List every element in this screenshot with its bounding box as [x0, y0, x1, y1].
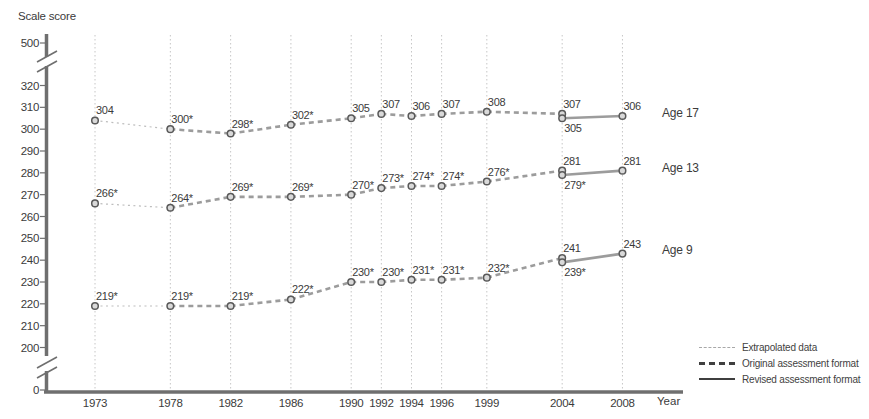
age-13-value-label-2004: 279*: [564, 179, 586, 191]
age-13-point-1982: [227, 194, 234, 201]
age-9-value-label-1978: 219*: [171, 290, 193, 302]
age-13-revised-segment: [562, 171, 622, 175]
legend-item-original: Original assessment format: [699, 355, 860, 371]
age-13-original-segment: [291, 195, 351, 197]
age-17-original-segment: [442, 112, 487, 114]
y-tick-label-270: 270: [21, 189, 39, 201]
x-tick-label-1990: 1990: [339, 397, 363, 409]
age-13-point-1994: [408, 183, 415, 190]
age-9-value-label-1990: 230*: [352, 266, 374, 278]
age-13-point-1999: [484, 178, 491, 185]
age-13-original-segment: [381, 186, 411, 188]
legend-item-extrapolated: Extrapolated data: [699, 339, 860, 355]
age-13-value-label-1996: 274*: [443, 170, 465, 182]
series-label-age-9: Age 9: [662, 243, 692, 257]
age-9-point-1986: [288, 296, 295, 303]
age-17-point-1994: [408, 113, 415, 120]
y-tick-label-500: 500: [21, 37, 39, 49]
age-17-value-label-1996: 307: [443, 98, 461, 110]
age-17-original-segment: [170, 129, 230, 133]
chart-figure: 5003203103002902802702602502402302202102…: [0, 0, 869, 419]
age-17-value-label-2004: 307: [563, 98, 581, 110]
y-tick-label-220: 220: [21, 298, 39, 310]
x-tick-label-1973: 1973: [83, 397, 107, 409]
age-9-value-label-1994: 231*: [412, 264, 434, 276]
x-tick-label-1994: 1994: [399, 397, 424, 409]
age-9-value-label-2004: 241: [563, 242, 581, 254]
x-tick-label-1982: 1982: [218, 397, 242, 409]
age-9-value-label-2004: 239*: [564, 266, 586, 278]
age-17-original-segment: [487, 112, 562, 114]
y-tick-label-240: 240: [21, 254, 39, 266]
y-tick-label-290: 290: [21, 145, 39, 157]
age-17-original-segment: [411, 114, 441, 116]
age-9-value-label-1999: 232*: [488, 262, 510, 274]
age-13-value-label-2004: 281: [563, 155, 581, 167]
age-9-point-1992: [378, 279, 385, 286]
age-17-original-segment: [381, 114, 411, 116]
x-axis-title: Year: [657, 395, 680, 407]
legend-label: Revised assessment format: [742, 374, 860, 385]
age-17-point-1990: [348, 115, 355, 122]
y-tick-label-210: 210: [21, 320, 39, 332]
y-tick-label-200: 200: [21, 342, 39, 354]
age-9-original-segment: [442, 278, 487, 280]
age-17-original-segment: [351, 114, 381, 118]
y-tick-label-260: 260: [21, 211, 39, 223]
age-17-point-1999: [484, 108, 491, 115]
x-tick-label-1996: 1996: [429, 397, 453, 409]
age-17-revised-segment: [562, 116, 622, 118]
age-9-revised-segment: [562, 254, 622, 263]
age-9-point-1982: [227, 303, 234, 310]
x-tick-label-1978: 1978: [158, 397, 182, 409]
x-tick-label-2004: 2004: [550, 397, 575, 409]
y-tick-label-250: 250: [21, 232, 39, 244]
extrapolated-line-swatch: [699, 347, 735, 348]
x-tick-label-2008: 2008: [610, 397, 634, 409]
series-label-age-17: Age 17: [662, 106, 699, 120]
age-13-value-label-1978: 264*: [171, 192, 193, 204]
age-13-value-label-2008: 281: [623, 155, 641, 167]
legend-label: Original assessment format: [742, 358, 859, 369]
age-17-value-label-1994: 306: [412, 100, 430, 112]
age-17-point-1986: [288, 122, 295, 129]
age-13-value-label-1994: 274*: [412, 170, 434, 182]
age-17-extrapolated-segment: [95, 120, 170, 129]
age-9-point-1999: [484, 274, 491, 281]
age-17-value-label-1999: 308: [488, 96, 506, 108]
y-axis-break-mark: [37, 357, 57, 368]
legend-label: Extrapolated data: [742, 342, 817, 353]
age-13-point-1996: [438, 183, 445, 190]
age-13-point-1992: [378, 185, 385, 192]
y-tick-label-230: 230: [21, 276, 39, 288]
age-9-value-label-1996: 231*: [443, 264, 465, 276]
age-13-value-label-1990: 270*: [352, 179, 374, 191]
age-9-point-1996: [438, 277, 445, 284]
age-17-value-label-1990: 305: [352, 102, 370, 114]
age-17-value-label-2004: 305: [564, 122, 582, 134]
age-13-point-1978: [167, 204, 174, 211]
age-17-point-2008: [619, 113, 626, 120]
age-9-point-1978: [167, 303, 174, 310]
age-13-value-label-1982: 269*: [232, 181, 254, 193]
age-13-point-1990: [348, 191, 355, 198]
age-17-point-1978: [167, 126, 174, 133]
age-13-extrapolated-segment: [95, 203, 170, 207]
age-9-value-label-1992: 230*: [382, 266, 404, 278]
age-13-point-1986: [288, 194, 295, 201]
age-17-point-1982: [227, 130, 234, 137]
age-13-point-2008: [619, 167, 626, 174]
age-9-point-1973: [92, 303, 99, 310]
age-13-point-2004: [559, 172, 566, 179]
y-tick-label-300: 300: [21, 123, 39, 135]
age-9-point-2004: [559, 259, 566, 266]
x-tick-label-1992: 1992: [369, 397, 393, 409]
age-13-point-1973: [92, 200, 99, 207]
age-13-value-label-1986: 269*: [292, 181, 314, 193]
age-17-point-1973: [92, 117, 99, 124]
age-17-point-2004: [559, 115, 566, 122]
y-tick-label-0: 0: [33, 384, 39, 396]
age-9-value-label-1986: 222*: [292, 283, 314, 295]
age-13-value-label-1992: 273*: [382, 172, 404, 184]
age-17-value-label-1982: 298*: [232, 118, 254, 130]
